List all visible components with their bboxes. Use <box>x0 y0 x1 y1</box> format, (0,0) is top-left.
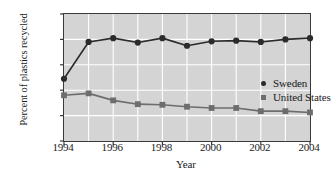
x-tick-label: 2004 <box>286 142 331 153</box>
legend-label: United States <box>273 91 331 105</box>
circle-marker-icon <box>258 81 268 86</box>
x-axis-label: Year <box>63 158 309 170</box>
plot-area: Sweden United States <box>63 13 311 142</box>
legend-label: Sweden <box>273 77 307 91</box>
legend-item-sweden: Sweden <box>258 77 331 91</box>
chart-legend: Sweden United States <box>258 77 331 104</box>
y-axis-label: Percent of plastics recycled <box>18 0 29 145</box>
x-tick-label: 2002 <box>237 142 283 153</box>
x-tick-label: 1998 <box>138 142 184 153</box>
x-tick-label: 2000 <box>188 142 234 153</box>
legend-item-united-states: United States <box>258 91 331 105</box>
square-marker-icon <box>258 95 268 100</box>
chart-figure: Percent of plastics recycled Sweden Unit… <box>0 0 331 177</box>
x-tick-label: 1994 <box>40 142 86 153</box>
x-tick-label: 1996 <box>89 142 135 153</box>
